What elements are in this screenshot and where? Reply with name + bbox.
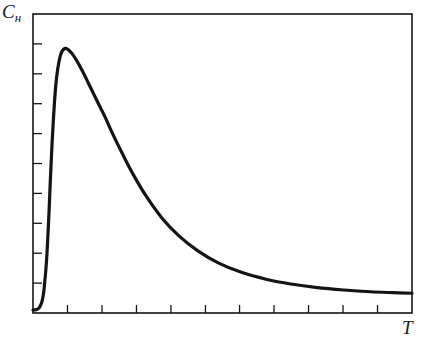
y-axis-label-base: C [2,1,15,22]
x-axis-label: T [402,318,413,337]
plot-frame [33,14,412,313]
data-curve-line [33,48,412,310]
frame-rectangle [33,14,412,313]
figure-canvas: Cн T [0,0,424,343]
y-axis-label-subscript: н [15,10,21,25]
y-axis-label: Cн [2,2,21,24]
x-axis-ticks [67,305,377,313]
plot-area [0,0,424,343]
y-axis-ticks [33,44,42,283]
